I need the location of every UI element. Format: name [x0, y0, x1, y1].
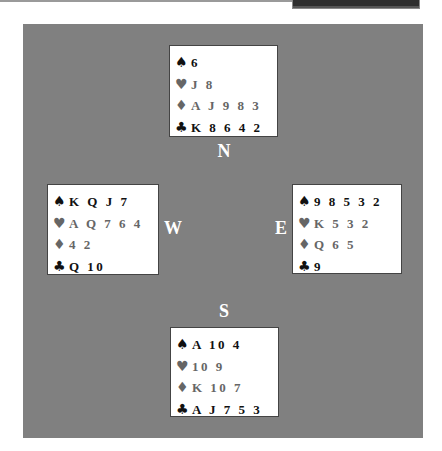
north-diamonds: ♦A J 9 8 3 — [175, 95, 277, 117]
north-hand: ♠6 ♥J 8 ♦A J 9 8 3 ♣K 8 6 4 2 — [169, 45, 278, 137]
seat-label-north: N — [214, 141, 234, 162]
spade-icon: ♠ — [176, 334, 189, 356]
heart-icon: ♥ — [53, 213, 66, 235]
top-rule — [0, 0, 292, 2]
diamond-icon: ♦ — [176, 377, 189, 399]
west-hand: ♠K Q J 7 ♥A Q 7 6 4 ♦4 2 ♣Q 10 — [47, 184, 159, 275]
spade-icon: ♠ — [53, 191, 66, 213]
diamond-icon: ♦ — [175, 95, 188, 117]
south-clubs: ♣A J 7 5 3 — [176, 399, 278, 421]
seat-label-south: S — [214, 301, 234, 322]
north-spades: ♠6 — [175, 52, 277, 74]
east-clubs: ♣9 — [298, 256, 401, 278]
diamond-icon: ♦ — [298, 234, 311, 256]
south-spades: ♠A 10 4 — [176, 334, 278, 356]
south-hearts: ♥10 9 — [176, 356, 278, 378]
east-hand: ♠9 8 5 3 2 ♥K 5 3 2 ♦Q 6 5 ♣9 — [292, 184, 402, 274]
spade-icon: ♠ — [298, 191, 311, 213]
club-icon: ♣ — [175, 117, 188, 139]
south-diamonds: ♦K 10 7 — [176, 377, 278, 399]
east-spades: ♠9 8 5 3 2 — [298, 191, 401, 213]
club-icon: ♣ — [176, 399, 189, 421]
east-hearts: ♥K 5 3 2 — [298, 213, 401, 235]
south-hand: ♠A 10 4 ♥10 9 ♦K 10 7 ♣A J 7 5 3 — [170, 327, 279, 417]
west-spades: ♠K Q J 7 — [53, 191, 158, 213]
seat-label-west: W — [163, 218, 183, 239]
east-diamonds: ♦Q 6 5 — [298, 234, 401, 256]
header-tab — [292, 0, 420, 9]
west-hearts: ♥A Q 7 6 4 — [53, 213, 158, 235]
club-icon: ♣ — [53, 256, 66, 278]
west-clubs: ♣Q 10 — [53, 256, 158, 278]
heart-icon: ♥ — [175, 74, 188, 96]
heart-icon: ♥ — [176, 356, 189, 378]
north-hearts: ♥J 8 — [175, 74, 277, 96]
seat-label-east: E — [271, 218, 291, 239]
diamond-icon: ♦ — [53, 234, 66, 256]
bridge-table: ♠6 ♥J 8 ♦A J 9 8 3 ♣K 8 6 4 2 N ♠K Q J 7… — [23, 24, 423, 438]
club-icon: ♣ — [298, 256, 311, 278]
heart-icon: ♥ — [298, 213, 311, 235]
spade-icon: ♠ — [175, 52, 188, 74]
north-clubs: ♣K 8 6 4 2 — [175, 117, 277, 139]
west-diamonds: ♦4 2 — [53, 234, 158, 256]
